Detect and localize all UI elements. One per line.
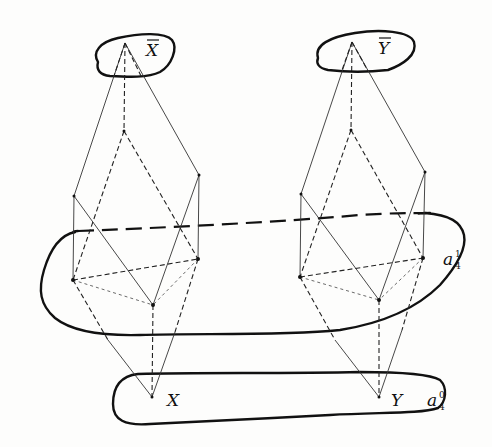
svg-text:Y: Y [378,38,391,58]
edge [153,259,198,305]
vertex [73,195,76,198]
edge [74,196,153,305]
region-a41-outline [41,213,465,335]
edge [300,258,423,277]
diagram-figure: X Y X Y a 1 4 a 0 4 [0,0,492,447]
vertex [71,278,75,282]
edge [73,196,74,280]
vertex [377,298,381,302]
vertex-x [151,396,154,399]
region-y-bar-outline [317,31,414,71]
edge [351,42,352,130]
svg-text:0: 0 [439,390,445,400]
edge [300,194,301,277]
vertex [196,257,200,261]
edge [379,330,402,397]
edge [352,42,425,172]
vertex [298,275,302,279]
edge [379,258,423,300]
edge [175,259,198,332]
edge [152,332,175,397]
edge [301,194,379,300]
edge [423,172,425,258]
label-x: X [165,390,180,410]
region-a41-dashed-edge [78,213,428,231]
vertex [198,174,201,177]
edge [402,258,423,330]
region-a41-left-shoulder [74,231,78,232]
vertex [421,256,425,260]
edge [379,172,425,300]
edge [124,43,125,131]
vertex [300,193,303,196]
svg-text:a: a [427,390,437,410]
svg-text:4: 4 [455,261,461,271]
vertex [123,130,126,133]
svg-text:4: 4 [439,402,445,412]
label-y: Y [391,390,404,410]
label-x-bar: X [144,40,159,60]
svg-text:X: X [144,40,159,60]
vertex [350,129,353,132]
edge [152,305,153,397]
region-x-bar-outline [96,34,174,77]
vertex [424,171,427,174]
vertex-y [378,396,381,399]
edge [73,259,198,280]
vertex [151,303,155,307]
edge [352,42,368,71]
edge [125,43,199,175]
edge [335,340,379,397]
edge [124,131,198,259]
svg-text:1: 1 [455,249,461,259]
edge [198,175,199,259]
svg-text:a: a [443,249,453,269]
edge [153,175,199,305]
edge [300,277,379,300]
label-y-bar: Y [378,38,391,58]
